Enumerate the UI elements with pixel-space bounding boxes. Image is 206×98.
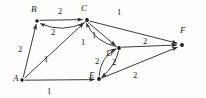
vertex-label-B: B bbox=[31, 5, 37, 14]
edge-D-F bbox=[122, 45, 177, 47]
edge-weight-E-F: 2 bbox=[133, 71, 137, 80]
vertex-dot-C bbox=[85, 18, 89, 22]
edge-weight-D-E: 2 bbox=[112, 58, 116, 67]
edge-A-E bbox=[25, 80, 95, 81]
edge-weight-C-B: 2 bbox=[51, 28, 55, 37]
edge-weight-A-C: 1 bbox=[44, 55, 48, 64]
vertex-dot-D bbox=[117, 46, 121, 50]
edge-B-C bbox=[40, 20, 83, 21]
edge-weight-C-F: 1 bbox=[117, 8, 121, 17]
edge-weight-A-E: 1 bbox=[47, 87, 51, 96]
vertex-label-A: A bbox=[13, 74, 19, 83]
edge-weight-E-D: 2 bbox=[95, 57, 99, 66]
vertex-dot-E bbox=[97, 77, 101, 81]
vertex-dot-F bbox=[180, 43, 184, 47]
edge-weight-D-F: 2 bbox=[143, 37, 147, 46]
edge-weight-D-C: 1 bbox=[81, 38, 85, 47]
vertex-label-E: E bbox=[89, 71, 95, 80]
vertex-dot-B bbox=[35, 19, 38, 22]
vertex-dot-A bbox=[20, 78, 23, 81]
vertex-label-F: F bbox=[180, 26, 186, 35]
graph-canvas bbox=[0, 0, 206, 98]
edge-weight-A-B: 2 bbox=[18, 45, 22, 54]
edge-C-F bbox=[90, 21, 178, 43]
edge-weight-C-D: 1 bbox=[92, 31, 96, 40]
edge-weight-B-C: 2 bbox=[58, 7, 62, 16]
directed-weighted-graph-figure: A B C D E F 2 2 2 1 1 1 1 1 2 2 2 2 bbox=[0, 0, 206, 98]
vertex-label-C: C bbox=[81, 4, 87, 13]
